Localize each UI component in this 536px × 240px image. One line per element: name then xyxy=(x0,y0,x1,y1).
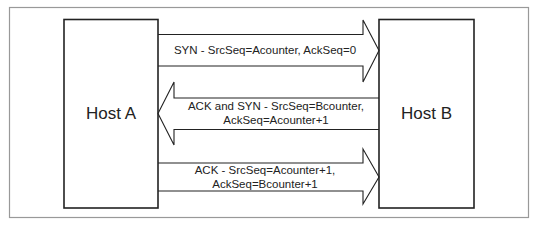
message-ack-line2: AckSeq=Bcounter+1 xyxy=(165,177,365,191)
host-b-label: Host B xyxy=(379,104,474,124)
message-syn-ack-line2: AckSeq=Acounter+1 xyxy=(176,113,376,127)
message-syn-line1: SYN - SrcSeq=Acounter, AckSeq=0 xyxy=(170,43,360,57)
message-syn-ack-line1: ACK and SYN - SrcSeq=Bcounter, xyxy=(176,99,376,113)
message-syn-label: SYN - SrcSeq=Acounter, AckSeq=0 xyxy=(170,43,360,57)
host-a-label: Host A xyxy=(64,104,158,124)
message-syn-ack-label: ACK and SYN - SrcSeq=Bcounter, AckSeq=Ac… xyxy=(176,99,376,127)
message-ack-label: ACK - SrcSeq=Acounter+1, AckSeq=Bcounter… xyxy=(165,163,365,191)
message-ack-line1: ACK - SrcSeq=Acounter+1, xyxy=(165,163,365,177)
